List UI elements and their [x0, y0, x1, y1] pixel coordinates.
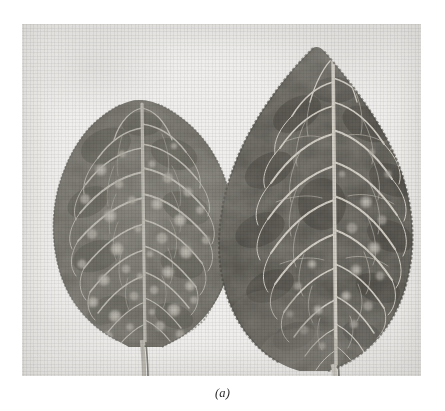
figure-container: (a) [0, 0, 445, 411]
figure-caption: (a) [0, 386, 445, 401]
photograph-plate [22, 24, 421, 376]
leaf-photograph-illustration [22, 24, 421, 376]
